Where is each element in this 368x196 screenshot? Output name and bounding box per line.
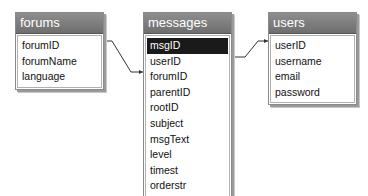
field-forumid[interactable]: forumID (147, 69, 228, 85)
field-userid[interactable]: userID (272, 38, 353, 54)
table-users[interactable]: users userID username email password (268, 12, 357, 105)
field-language[interactable]: language (19, 69, 100, 85)
field-userid[interactable]: userID (147, 54, 228, 70)
field-list: msgID userID forumID parentID rootID sub… (145, 35, 230, 196)
field-forumid[interactable]: forumID (19, 38, 100, 54)
field-rootid[interactable]: rootID (147, 100, 228, 116)
table-title[interactable]: messages (144, 13, 231, 34)
field-parentid[interactable]: parentID (147, 85, 228, 101)
field-timest[interactable]: timest (147, 163, 228, 179)
field-list: forumID forumName language (17, 35, 102, 88)
table-forums[interactable]: forums forumID forumName language (15, 12, 104, 90)
table-title[interactable]: users (269, 13, 356, 34)
field-subject[interactable]: subject (147, 116, 228, 132)
field-list: userID username email password (270, 35, 355, 103)
field-level[interactable]: level (147, 147, 228, 163)
field-username[interactable]: username (272, 54, 353, 70)
field-orderstr[interactable]: orderstr (147, 178, 228, 194)
link-messages-users (232, 41, 268, 57)
table-messages[interactable]: messages msgID userID forumID parentID r… (143, 12, 232, 196)
field-email[interactable]: email (272, 69, 353, 85)
field-msgtext[interactable]: msgText (147, 132, 228, 148)
field-password[interactable]: password (272, 85, 353, 101)
table-title[interactable]: forums (16, 13, 103, 34)
field-forumname[interactable]: forumName (19, 54, 100, 70)
link-forums-messages (104, 41, 143, 72)
field-msgid[interactable]: msgID (147, 38, 228, 54)
